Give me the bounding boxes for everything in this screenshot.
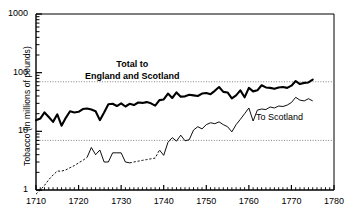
x-tick-label: 1710 (19, 196, 53, 206)
plot-frame (36, 14, 334, 190)
plot-area (0, 0, 351, 217)
annotation-scotland-label: To Scotland (256, 112, 303, 122)
x-tick-label: 1720 (62, 196, 96, 206)
chart-figure: Tobacco (in millions of pounds) 11010010… (0, 0, 351, 217)
x-tick-label: 1740 (147, 196, 181, 206)
y-axis-major-ticks (36, 14, 42, 190)
annotation-total-line1: Total to (85, 59, 180, 71)
y-tick-label: 10 (2, 125, 28, 135)
x-tick-label: 1750 (189, 196, 223, 206)
y-tick-label: 1 (2, 184, 28, 194)
x-tick-label: 1770 (274, 196, 308, 206)
x-tick-label: 1760 (232, 196, 266, 206)
annotation-total-label: Total to England and Scotland (85, 59, 180, 82)
x-tick-label: 1780 (317, 196, 351, 206)
y-tick-label: 100 (2, 67, 28, 77)
x-tick-label: 1730 (104, 196, 138, 206)
y-axis-title: Tobacco (in millions of pounds) (22, 21, 32, 191)
annotation-total-line2: England and Scotland (85, 71, 180, 83)
y-tick-label: 1000 (2, 8, 28, 18)
